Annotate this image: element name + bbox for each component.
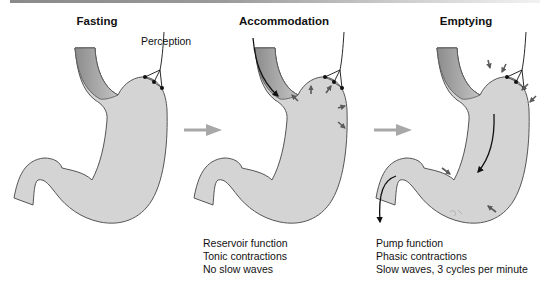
- perception-label: Perception: [141, 35, 191, 47]
- note-line: Tonic contractions: [203, 250, 288, 263]
- transition-arrow-1: [184, 124, 222, 136]
- panel-fasting-stomach: [14, 32, 167, 223]
- note-line: Slow waves, 3 cycles per minute: [376, 263, 528, 276]
- panel-title-emptying: Emptying: [440, 15, 492, 27]
- note-line: No slow waves: [203, 263, 288, 276]
- emptying-notes: Pump function Phasic contractions Slow w…: [376, 237, 528, 276]
- transition-arrow-2: [374, 124, 412, 136]
- panel-accommodation-stomach: [194, 32, 347, 223]
- note-line: Reservoir function: [203, 237, 288, 250]
- note-line: Phasic contractions: [376, 250, 528, 263]
- panel-title-fasting: Fasting: [77, 15, 118, 27]
- accommodation-notes: Reservoir function Tonic contractions No…: [203, 237, 288, 276]
- note-line: Pump function: [376, 237, 528, 250]
- panel-title-accommodation: Accommodation: [239, 15, 329, 27]
